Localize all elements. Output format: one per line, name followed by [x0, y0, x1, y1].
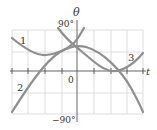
origin-label: 0	[68, 75, 74, 85]
curve-2-label: 2	[17, 82, 23, 93]
theta-vs-t-chart: θ t 90° 0 −90° 1 2 3	[0, 0, 157, 130]
y-top-label: 90°	[58, 19, 74, 29]
curve-1-label: 1	[20, 35, 26, 46]
y-bottom-label: −90°	[52, 115, 76, 125]
axes	[10, 20, 146, 122]
curves	[12, 28, 143, 112]
theta-label: θ	[73, 6, 80, 19]
grid	[12, 30, 143, 114]
curve-3	[58, 28, 143, 71]
curve-2	[12, 46, 143, 112]
t-label: t	[146, 66, 151, 77]
curve-3-label: 3	[128, 52, 134, 63]
